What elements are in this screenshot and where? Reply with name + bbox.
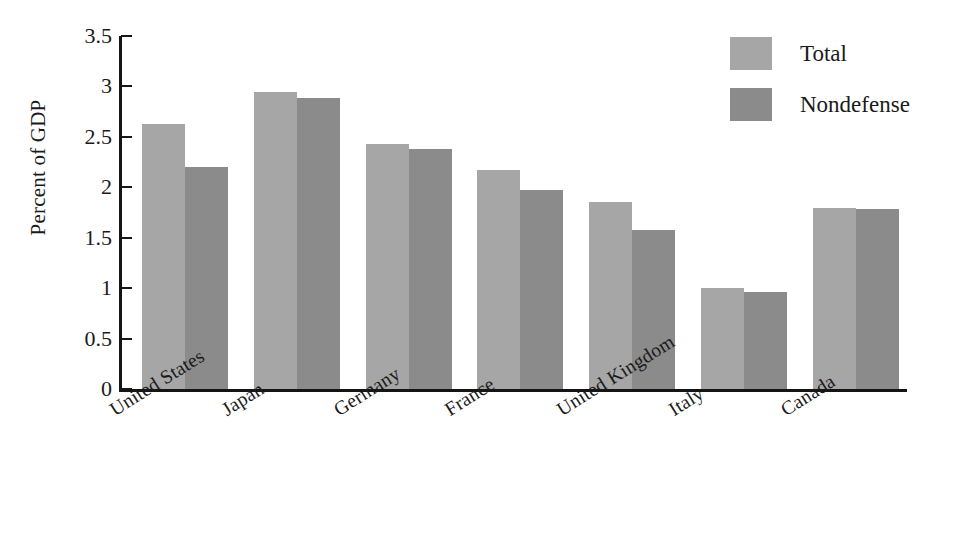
legend-label: Total (800, 41, 847, 67)
bar-total-united-states (142, 124, 185, 389)
legend-swatch-icon (730, 88, 772, 121)
bar-nondefense-france (520, 190, 563, 389)
bar-total-france (477, 170, 520, 389)
bar-total-germany (366, 144, 409, 389)
bar-nondefense-italy (744, 292, 787, 389)
bar-total-italy (701, 288, 744, 389)
legend-label: Nondefense (800, 92, 910, 118)
legend-item-total[interactable]: Total (730, 37, 847, 70)
bar-total-japan (254, 92, 297, 389)
bar-chart: Percent of GDP 00.511.522.533.5 United S… (0, 0, 954, 536)
bar-nondefense-germany (409, 149, 452, 389)
plot-area: United StatesJapanGermanyFranceUnited Ki… (0, 0, 954, 536)
legend-item-nondef[interactable]: Nondefense (730, 88, 910, 121)
bar-nondefense-canada (856, 209, 899, 389)
legend-swatch-icon (730, 37, 772, 70)
bar-nondefense-japan (297, 98, 340, 389)
bar-total-canada (813, 208, 856, 389)
